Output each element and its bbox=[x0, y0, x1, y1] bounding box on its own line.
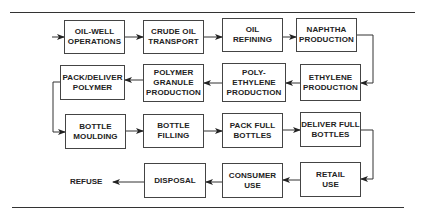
node-oil-refining: OIL REFINING bbox=[222, 18, 283, 52]
node-refuse: REFUSE bbox=[70, 177, 102, 186]
node-pack-full-bottles: PACK FULL BOTTLES bbox=[222, 113, 283, 148]
node-deliver-full-bottles: DELIVER FULL BOTTLES bbox=[300, 112, 361, 147]
node-disposal: DISPOSAL bbox=[144, 163, 206, 198]
node-polyethylene-production: POLY- ETHYLENE PRODUCTION bbox=[222, 63, 286, 102]
node-crude-oil-transport: CRUDE OIL TRANSPORT bbox=[143, 20, 204, 54]
node-pack-deliver-polymer: PACK/DELIVER POLYMER bbox=[60, 65, 125, 100]
node-ethylene-production: ETHYLENE PRODUCTION bbox=[300, 64, 361, 101]
node-oil-well-operations: OIL-WELL OPERATIONS bbox=[64, 20, 125, 54]
node-bottle-moulding: BOTTLE MOULDING bbox=[65, 114, 126, 149]
node-polymer-granule-production: POLYMER GRANULE PRODUCTION bbox=[143, 64, 204, 102]
arrow-deliver-to-retail bbox=[361, 130, 373, 179]
node-naphtha-production: NAPHTHA PRODUCTION bbox=[296, 18, 357, 52]
node-retail-use: RETAIL USE bbox=[300, 162, 361, 197]
node-consumer-use: CONSUMER USE bbox=[222, 163, 283, 198]
node-bottle-filling: BOTTLE FILLING bbox=[143, 114, 204, 148]
